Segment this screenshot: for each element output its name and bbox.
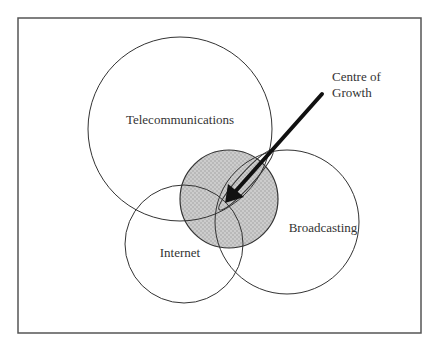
venn-diagram: Telecommunications Internet Broadcasting… [0,0,439,349]
centre-of-growth-label-line2: Growth [332,85,372,100]
telecommunications-label: Telecommunications [126,112,234,127]
growth-arrow-shaft [234,94,322,193]
centre-of-growth-label-line1: Centre of [332,69,381,84]
internet-label: Internet [160,245,201,260]
broadcasting-label: Broadcasting [289,220,358,235]
